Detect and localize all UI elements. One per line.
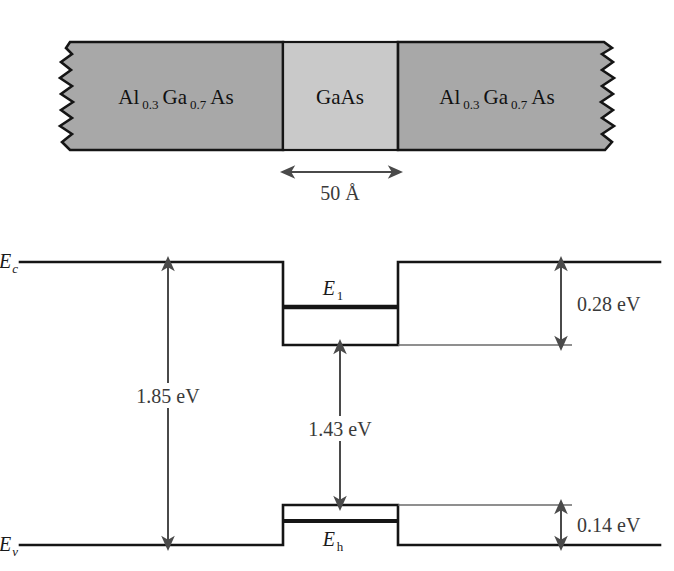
label-electron-level-E1: E1 — [322, 277, 344, 303]
well-bandgap-measure: 1.43 eV — [308, 347, 372, 503]
conduction-band-line — [20, 262, 660, 345]
label-conduction-offset: 0.28 eV — [577, 293, 641, 315]
label-barrier-bandgap: 1.85 eV — [136, 385, 200, 407]
label-valence-offset: 0.14 eV — [577, 514, 641, 536]
figure-root: Al0.3Ga0.7As GaAs Al0.3Ga0.7As 50 Å — [0, 0, 674, 571]
label-barrier-left-material: Al0.3Ga0.7As — [118, 85, 233, 112]
band-diagram-figure: Al0.3Ga0.7As GaAs Al0.3Ga0.7As 50 Å — [0, 0, 674, 571]
label-barrier-right-material: Al0.3Ga0.7As — [439, 85, 554, 112]
conduction-offset-measure: 0.28 eV — [561, 264, 641, 343]
label-well-material: GaAs — [316, 85, 364, 109]
barrier-bandgap-measure: 1.85 eV — [136, 264, 200, 543]
label-valence-band: Ev — [0, 533, 18, 559]
label-well-bandgap: 1.43 eV — [308, 418, 372, 440]
valence-offset-measure: 0.14 eV — [561, 507, 641, 543]
material-slab: Al0.3Ga0.7As GaAs Al0.3Ga0.7As — [60, 42, 614, 150]
label-well-width: 50 Å — [320, 182, 360, 204]
label-hole-level-Eh: Eh — [322, 528, 344, 554]
well-width-dimension: 50 Å — [288, 172, 395, 204]
label-conduction-band: Ec — [0, 250, 18, 276]
